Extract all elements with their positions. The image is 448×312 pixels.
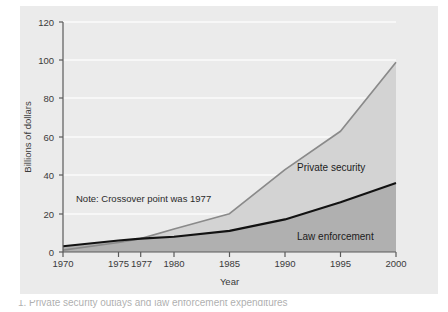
y-tick-label-40: 40	[43, 170, 54, 181]
x-tick-marks	[63, 252, 396, 257]
area-chart: 0 20 40 60 80 100 120 1970 1975 1977 198…	[0, 0, 448, 312]
y-tick-labels: 0 20 40 60 80 100 120	[38, 17, 54, 258]
series-label-law-enforcement: Law enforcement	[297, 231, 374, 242]
y-tick-label-0: 0	[49, 247, 54, 258]
x-axis-title: Year	[220, 276, 239, 287]
x-tick-label-2000: 2000	[385, 258, 406, 269]
chart-figure: 0 20 40 60 80 100 120 1970 1975 1977 198…	[0, 0, 448, 312]
x-tick-label-1975: 1975	[108, 258, 129, 269]
y-tick-label-120: 120	[38, 17, 54, 28]
caption-strip: 1. Private security outlays and law enfo…	[0, 300, 448, 312]
x-tick-label-1990: 1990	[274, 258, 295, 269]
y-tick-label-60: 60	[43, 132, 54, 143]
y-tick-label-20: 20	[43, 209, 54, 220]
y-axis-title: Billions of dollars	[22, 101, 33, 173]
x-tick-label-1995: 1995	[330, 258, 351, 269]
x-tick-label-1985: 1985	[219, 258, 240, 269]
y-tick-label-100: 100	[38, 55, 54, 66]
x-tick-label-1970: 1970	[52, 258, 73, 269]
crossover-note: Note: Crossover point was 1977	[76, 193, 211, 204]
y-tick-label-80: 80	[43, 93, 54, 104]
x-tick-labels: 1970 1975 1977 1980 1985 1990 1995 2000	[52, 258, 406, 269]
series-label-private-security: Private security	[297, 162, 365, 173]
x-tick-label-1977: 1977	[131, 258, 152, 269]
x-tick-label-1980: 1980	[163, 258, 184, 269]
caption-text: 1. Private security outlays and law enfo…	[18, 300, 288, 308]
